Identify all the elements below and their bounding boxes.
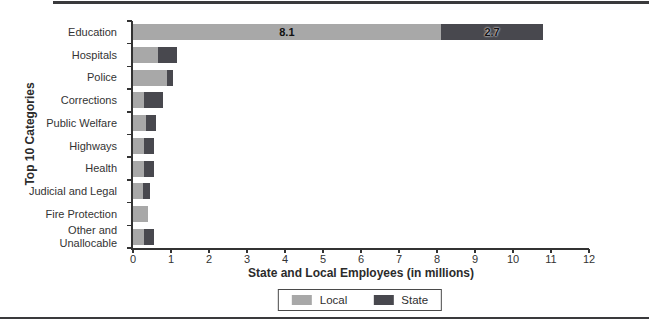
data-label-state: 2.7 (484, 26, 499, 38)
bar-segment-state (146, 115, 156, 131)
bar-row-other-and-unallocable (133, 225, 589, 248)
x-tick-label-5: 5 (311, 253, 335, 265)
y-tick-1 (127, 43, 132, 45)
bar-segment-local (133, 70, 167, 86)
bar-segment-local (133, 161, 144, 177)
legend-label-state: State (401, 294, 428, 306)
bar-segment-local (133, 115, 146, 131)
category-label-corrections: Corrections (0, 89, 124, 112)
bar-row-corrections (133, 89, 589, 112)
bar-segment-local (133, 183, 143, 199)
legend-item-local: Local (292, 294, 348, 306)
x-tick-label-7: 7 (387, 253, 411, 265)
bar-segment-state (143, 183, 151, 199)
y-tick-8 (127, 202, 132, 204)
x-tick-label-11: 11 (539, 253, 563, 265)
category-label-fire-protection: Fire Protection (0, 203, 124, 226)
legend-item-state: State (373, 294, 428, 306)
category-label-education: Education (0, 21, 124, 44)
bar-row-judicial-and-legal (133, 180, 589, 203)
bar-segment-local (133, 206, 148, 222)
x-tick-label-9: 9 (463, 253, 487, 265)
plot-area: 8.12.7 (131, 21, 589, 250)
category-label-police: Police (0, 66, 124, 89)
bottom-divider (0, 317, 649, 319)
bar-row-public-welfare (133, 112, 589, 135)
bar-row-police (133, 66, 589, 89)
y-tick-10 (127, 247, 132, 249)
y-tick-7 (127, 179, 132, 181)
legend-swatch-local (292, 295, 312, 305)
bar-segment-local (133, 138, 144, 154)
bar-segment-local (133, 92, 144, 108)
x-tick-label-1: 1 (159, 253, 183, 265)
bar-segment-state (144, 92, 163, 108)
bar-segment-state (144, 138, 154, 154)
bar-segment-state (144, 229, 154, 245)
y-tick-6 (127, 156, 132, 158)
y-tick-5 (127, 134, 132, 136)
x-tick-label-12: 12 (577, 253, 601, 265)
x-tick-label-3: 3 (235, 253, 259, 265)
x-tick-label-8: 8 (425, 253, 449, 265)
y-tick-3 (127, 88, 132, 90)
top-divider (53, 1, 649, 4)
bar-row-education: 8.12.7 (133, 21, 589, 44)
bar-segment-state: 2.7 (441, 24, 544, 40)
x-tick-label-10: 10 (501, 253, 525, 265)
x-axis-title: State and Local Employees (in millions) (133, 266, 589, 280)
bar-row-highways (133, 135, 589, 158)
bar-row-hospitals (133, 44, 589, 67)
bar-segment-local (133, 47, 158, 63)
y-tick-0 (127, 20, 132, 22)
figure: Top 10 Categories EducationHospitalsPoli… (0, 0, 649, 330)
category-label-other-and-unallocable: Other and Unallocable (0, 225, 124, 248)
category-label-hospitals: Hospitals (0, 44, 124, 67)
y-tick-9 (127, 225, 132, 227)
bar-row-health (133, 157, 589, 180)
bar-segment-state (167, 70, 173, 86)
legend-swatch-state (373, 295, 393, 305)
category-label-highways: Highways (0, 135, 124, 158)
legend: LocalState (278, 289, 442, 311)
bar-segment-local (133, 229, 144, 245)
legend-label-local: Local (320, 294, 348, 306)
category-label-judicial-and-legal: Judicial and Legal (0, 180, 124, 203)
category-label-health: Health (0, 157, 124, 180)
bar-segment-state (158, 47, 177, 63)
bar-segment-state (144, 161, 154, 177)
bar-row-fire-protection (133, 203, 589, 226)
data-label-local: 8.1 (279, 26, 294, 38)
y-tick-4 (127, 111, 132, 113)
x-tick-label-4: 4 (273, 253, 297, 265)
x-tick-label-6: 6 (349, 253, 373, 265)
y-tick-2 (127, 66, 132, 68)
bar-segment-local: 8.1 (133, 24, 441, 40)
category-label-public-welfare: Public Welfare (0, 112, 124, 135)
x-tick-label-0: 0 (121, 253, 145, 265)
x-tick-label-2: 2 (197, 253, 221, 265)
